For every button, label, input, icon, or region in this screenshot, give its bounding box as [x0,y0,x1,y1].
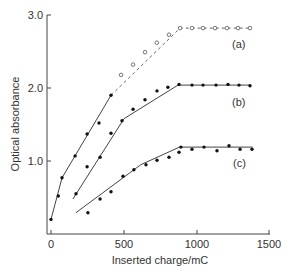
series-layer [49,26,253,221]
x-tick-label: 500 [115,238,133,250]
series-label-c: (c) [233,157,246,169]
series-c-point [238,148,241,151]
series-b-point [98,156,101,159]
series-b-point [85,165,88,168]
x-tick-label: 1000 [185,238,209,250]
x-axis-title: Inserted charge/mC [112,254,209,266]
series-c-point [215,149,218,152]
series-b-point [155,89,158,92]
series-a-fit-line [51,95,111,219]
series-c-point [98,197,101,200]
series-a-open-point [236,26,240,30]
x-tick-labels: 0 500 1000 1500 [48,238,281,250]
x-tick-label: 0 [48,238,54,250]
series-b-point [237,83,240,86]
series-c-point [109,190,112,193]
series-c-point [250,148,253,151]
y-tick-label: 2.0 [28,82,43,94]
series-a-open-point [201,26,205,30]
series-c-point [190,148,193,151]
series-a-open-point [213,26,217,30]
series-c-fit-line [76,147,253,213]
absorbance-chart: 3.0 2.0 1.0 0 500 1000 1500 Inserted cha… [0,0,291,274]
series-a-open-point [131,63,135,67]
series-a-open-point [155,41,159,45]
series-a-open-point [225,26,229,30]
series-b-point [177,83,180,86]
series-c-point [86,211,89,214]
series-a-open-point [248,26,252,30]
series-c-point [202,145,205,148]
series-b-point [201,83,204,86]
series-a-point [85,132,88,135]
series-c-point [227,144,230,147]
series-b-point [248,84,251,87]
series-b-point [226,83,229,86]
series-a-open-point [178,26,182,30]
y-tick-labels: 3.0 2.0 1.0 [28,9,43,167]
series-b-point [143,98,146,101]
series-a-point [57,194,60,197]
series-b-point [166,86,169,89]
series-label-a: (a) [232,38,245,50]
series-a-point [49,218,52,221]
series-c-point [144,163,147,166]
series-c-point [132,168,135,171]
y-axis-title: Optical absorbance [9,77,21,172]
series-b-point [131,108,134,111]
series-c-point [167,156,170,159]
series-a-point [73,154,76,157]
series-c-point [177,151,180,154]
series-c-point [155,159,158,162]
series-a-point [60,176,63,179]
x-tick-label: 1500 [257,238,281,250]
y-tick-label: 3.0 [28,9,43,21]
series-a-open-point [119,73,123,77]
series-a-open-point [190,26,194,30]
series-b-point [190,83,193,86]
series-b-fit-line [73,85,251,199]
series-b-point [214,83,217,86]
series-c-point [179,145,182,148]
series-a-open-point [167,33,171,37]
series-c-point [121,175,124,178]
series-a-point [109,94,112,97]
series-b-point [120,119,123,122]
series-b-point [74,192,77,195]
y-tick-label: 1.0 [28,155,43,167]
series-b-point [109,132,112,135]
series-a-open-point [143,50,147,54]
series-label-b: (b) [232,96,245,108]
series-a-point [97,121,100,124]
